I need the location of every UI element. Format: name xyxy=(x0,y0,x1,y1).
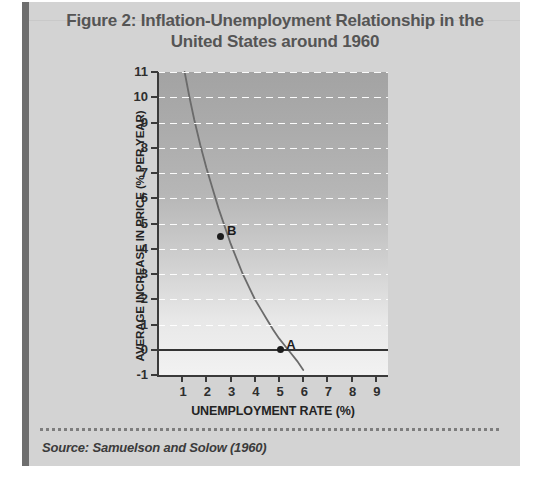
gridline xyxy=(158,173,388,174)
x-axis-title: UNEMPLOYMENT RATE (%) xyxy=(158,404,388,418)
gridline xyxy=(158,299,388,300)
y-axis-tick xyxy=(151,197,158,199)
x-axis-tick xyxy=(326,375,328,382)
gridline xyxy=(158,325,388,326)
y-axis-tick xyxy=(151,172,158,174)
x-axis-tick-label: 1 xyxy=(171,385,195,398)
data-point-label-a: A xyxy=(286,338,295,351)
gridline xyxy=(158,249,388,250)
x-axis-tick xyxy=(278,375,280,382)
x-axis-tick-label: 7 xyxy=(316,385,340,398)
source-note: Source: Samuelson and Solow (1960) xyxy=(42,440,266,455)
y-axis-tick xyxy=(151,273,158,275)
y-axis-tick xyxy=(151,374,158,376)
gridline xyxy=(158,123,388,124)
y-axis-title: AVERAGE INCREASE IN PRICE (% PER YEAR) xyxy=(134,86,146,386)
x-axis-tick-label: 2 xyxy=(195,385,219,398)
x-axis-tick xyxy=(254,375,256,382)
x-axis-tick-label: 9 xyxy=(365,385,389,398)
x-axis-tick-label: 6 xyxy=(292,385,316,398)
y-axis-tick xyxy=(151,248,158,250)
figure-root: Figure 2: Inflation-Unemployment Relatio… xyxy=(0,0,536,480)
x-axis-tick xyxy=(181,375,183,382)
source-separator xyxy=(40,428,500,431)
y-axis-tick xyxy=(151,71,158,73)
y-axis-tick xyxy=(151,298,158,300)
x-axis-tick xyxy=(205,375,207,382)
gridline xyxy=(158,198,388,199)
x-axis-tick-label: 8 xyxy=(341,385,365,398)
x-axis-tick-label: 4 xyxy=(244,385,268,398)
y-axis-tick xyxy=(151,324,158,326)
data-point-a xyxy=(277,346,284,353)
x-axis-tick xyxy=(230,375,232,382)
plot-area xyxy=(158,72,388,375)
gridline xyxy=(158,274,388,275)
y-axis-tick xyxy=(151,122,158,124)
x-axis-tick-label: 3 xyxy=(220,385,244,398)
x-axis-tick-label: 5 xyxy=(268,385,292,398)
x-axis-tick xyxy=(302,375,304,382)
chart-plot: -101234567891011 123456789 AB AVERAGE IN… xyxy=(0,0,536,480)
gridline xyxy=(158,97,388,98)
y-axis-tick xyxy=(151,223,158,225)
zero-line xyxy=(158,349,388,351)
y-axis-tick xyxy=(151,147,158,149)
gridline xyxy=(158,72,388,73)
x-axis-line xyxy=(157,375,388,377)
y-axis-tick xyxy=(151,96,158,98)
gridline xyxy=(158,224,388,225)
y-axis-tick-label: 11 xyxy=(118,65,148,78)
y-axis-tick xyxy=(151,349,158,351)
x-axis-tick xyxy=(351,375,353,382)
gridline xyxy=(158,148,388,149)
data-point-label-b: B xyxy=(227,224,236,237)
x-axis-tick xyxy=(375,375,377,382)
